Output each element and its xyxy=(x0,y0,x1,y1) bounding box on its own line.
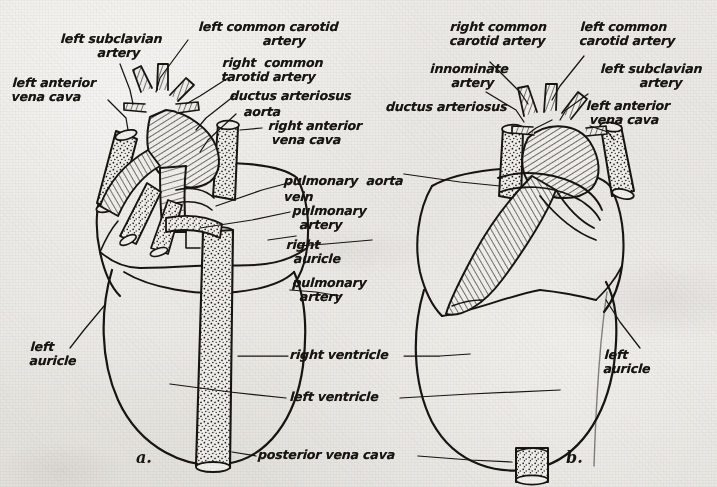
posterior-vena-cava-vessel-b xyxy=(516,448,548,485)
label-left-subclavian-artery-a: left subclavian artery xyxy=(35,32,187,60)
scanned-figure-page: left subclavian artery left common carot… xyxy=(0,0,717,487)
label-right-anterior-vena-cava-a: right anterior vena cava xyxy=(267,119,429,147)
label-right-common-carotid-artery-b: right common carotid artery xyxy=(425,20,571,48)
label-posterior-vena-cava: posterior vena cava xyxy=(258,448,429,462)
label-right-ventricle: right ventricle xyxy=(290,348,411,362)
label-pulmonary-artery-lower: pulmonary artery xyxy=(291,276,423,304)
label-left-auricle-b: left auricle xyxy=(603,348,685,376)
label-left-anterior-vena-cava-a: left anterior vena cava xyxy=(11,76,163,104)
label-ductus-arteriosus-b: ductus arteriosus xyxy=(386,100,559,114)
label-left-anterior-vena-cava-b: left anterior vena cava xyxy=(585,99,717,127)
posterior-vena-cava-vessel-a xyxy=(196,227,233,472)
figure-caption-a: a. xyxy=(136,448,152,467)
label-left-common-carotid-artery-b: left common carotid artery xyxy=(579,20,717,48)
label-left-common-carotid-artery-a: left common carotid artery xyxy=(177,20,359,48)
label-pulmonary-aorta: pulmonary aorta xyxy=(284,174,465,188)
label-pulmonary-artery-upper: pulmonary artery xyxy=(291,204,423,232)
label-left-auricle-a: left auricle xyxy=(29,340,121,368)
label-left-ventricle: left ventricle xyxy=(290,390,411,404)
figure-caption-b: b. xyxy=(566,448,583,467)
label-left-subclavian-artery-b: left subclavian artery xyxy=(579,62,717,90)
label-right-common-carotid-artery-a: right common tarotid artery xyxy=(221,56,393,84)
label-innominate-artery-b: innominate artery xyxy=(403,62,535,90)
label-right-auricle: right auricle xyxy=(285,238,417,266)
label-ductus-arteriosus-a: ductus arteriosus xyxy=(230,89,411,103)
